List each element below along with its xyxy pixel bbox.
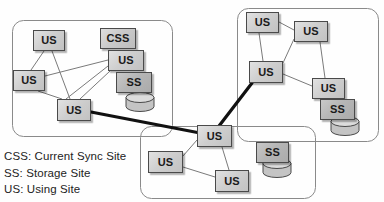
legend-item-us: US: Using Site bbox=[4, 181, 126, 198]
node-label: US bbox=[41, 35, 57, 46]
node-label: CSS bbox=[106, 33, 129, 44]
node-L-css[interactable]: CSS bbox=[100, 28, 136, 49]
node-L-ss[interactable]: SS bbox=[116, 72, 152, 93]
node-L-us-left[interactable]: US bbox=[13, 70, 45, 91]
node-B-us-right[interactable]: US bbox=[215, 170, 249, 192]
node-label: US bbox=[207, 131, 223, 142]
link-R-us-top-to-R-us-left bbox=[259, 33, 263, 61]
link-R-us-top2-to-R-us-left bbox=[283, 39, 294, 63]
node-B-us-left[interactable]: US bbox=[148, 151, 183, 173]
node-label: US bbox=[158, 157, 174, 168]
node-B-ss[interactable]: SS bbox=[256, 142, 289, 163]
node-label: US bbox=[303, 26, 319, 37]
node-label: SS bbox=[330, 104, 345, 115]
link-L-us-top-to-L-us-bottom bbox=[52, 51, 70, 99]
link-L-us-top-to-L-us-left bbox=[31, 51, 44, 70]
node-R-us-left[interactable]: US bbox=[249, 61, 283, 83]
link-R-us-top2-to-R-us-right bbox=[320, 42, 325, 78]
legend-item-ss: SS: Storage Site bbox=[4, 165, 126, 182]
link-B-us-top-to-B-us-right bbox=[222, 147, 229, 170]
link-R-us-top-to-R-us-top2 bbox=[279, 22, 294, 30]
node-R-us-right[interactable]: US bbox=[312, 78, 345, 99]
node-label: US bbox=[66, 105, 82, 116]
node-R-us-top[interactable]: US bbox=[246, 12, 279, 33]
link-B-us-top-to-B-us-left bbox=[183, 140, 197, 156]
primary-link-R-us-left-to-B-us-top bbox=[219, 83, 252, 126]
node-label: US bbox=[321, 83, 337, 94]
link-L-us-left-to-L-us-bottom bbox=[38, 91, 62, 99]
node-B-us-top[interactable]: US bbox=[197, 125, 232, 147]
legend-item-css: CSS: Current Sync Site bbox=[4, 148, 126, 165]
node-L-us-top[interactable]: US bbox=[33, 30, 65, 51]
abbreviation-legend: CSS: Current Sync Site SS: Storage Site … bbox=[4, 148, 126, 198]
link-B-us-left-to-B-us-right bbox=[183, 167, 215, 177]
storage-cylinder-left-top bbox=[126, 93, 154, 103]
node-label: US bbox=[224, 176, 240, 187]
node-label: SS bbox=[265, 147, 280, 158]
node-R-ss[interactable]: SS bbox=[320, 99, 355, 120]
node-label: US bbox=[118, 55, 134, 66]
link-L-us-stack-to-L-us-topX bbox=[66, 66, 108, 99]
node-label: US bbox=[21, 75, 37, 86]
diagram-canvas: USUSUSCSSUSSSUSUSUSUSSSUSUSUSSS CSS: Cur… bbox=[0, 0, 384, 202]
node-L-us-stack[interactable]: US bbox=[108, 50, 144, 71]
link-R-us-left-to-R-us-right bbox=[283, 74, 312, 86]
node-R-us-top2[interactable]: US bbox=[294, 21, 328, 42]
node-L-us-bottom[interactable]: US bbox=[57, 99, 91, 121]
node-label: US bbox=[255, 17, 271, 28]
storage-cylinder-left bbox=[126, 93, 154, 112]
node-label: US bbox=[258, 67, 274, 78]
primary-link-L-us-bottom-to-B-us-top bbox=[91, 112, 200, 133]
node-label: SS bbox=[126, 77, 141, 88]
